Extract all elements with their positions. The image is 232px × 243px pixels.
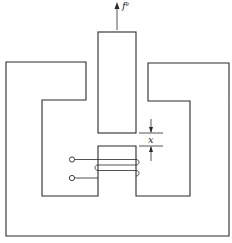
excitation-coil	[75, 160, 139, 179]
coil-terminal-bottom	[69, 175, 74, 180]
actuator-diagram: fe x	[0, 0, 232, 243]
outer-core	[6, 62, 229, 236]
gap-label: x	[148, 134, 154, 145]
coil-terminal-top	[69, 157, 74, 162]
movable-plunger	[98, 32, 136, 133]
force-arrow	[115, 2, 120, 30]
force-label: fe	[121, 0, 130, 11]
